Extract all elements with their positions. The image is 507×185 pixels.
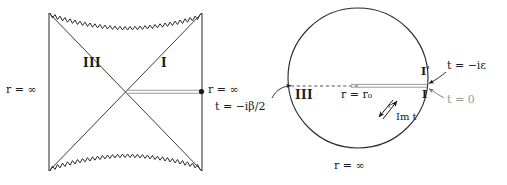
penrose-region-I-label: I xyxy=(161,57,167,69)
euclidean-imaginary-time-label: Im t xyxy=(396,112,417,122)
euclidean-region-I-prime-label: Iʹ xyxy=(421,66,430,77)
euclidean-radial-axis-label: r xyxy=(388,102,392,110)
euclidean-epsilon-time-label: t = −iε xyxy=(447,60,486,71)
penrose-right-infinity-label: r = ∞ xyxy=(208,84,239,95)
epsilon-pointer-arrow xyxy=(429,72,446,83)
penrose-bottom-singularity xyxy=(50,154,202,171)
zero-time-pointer-arrow xyxy=(429,89,444,98)
euclidean-region-III-label: III xyxy=(295,89,313,101)
penrose-region-III-label: III xyxy=(83,57,101,69)
penrose-left-infinity-label: r = ∞ xyxy=(6,84,37,95)
penrose-diagram-group xyxy=(49,13,204,171)
euclidean-circle xyxy=(288,8,428,148)
euclidean-section-group xyxy=(272,8,446,148)
penrose-top-singularity xyxy=(50,13,202,30)
euclidean-origin-label: r = r₀ xyxy=(341,89,372,100)
euclidean-region-I-label: I xyxy=(422,89,428,100)
figure-canvas: r = ∞ III I r = ∞ t = −iβ/2 III r = r₀ r… xyxy=(0,0,507,185)
penrose-endpoint-dot xyxy=(199,89,204,94)
penrose-half-beta-time-label: t = −iβ/2 xyxy=(215,101,265,112)
euclidean-zero-time-label: t = 0 xyxy=(447,94,475,105)
euclidean-outer-infinity-label: r = ∞ xyxy=(334,160,365,171)
figure-vector-art xyxy=(0,0,507,185)
